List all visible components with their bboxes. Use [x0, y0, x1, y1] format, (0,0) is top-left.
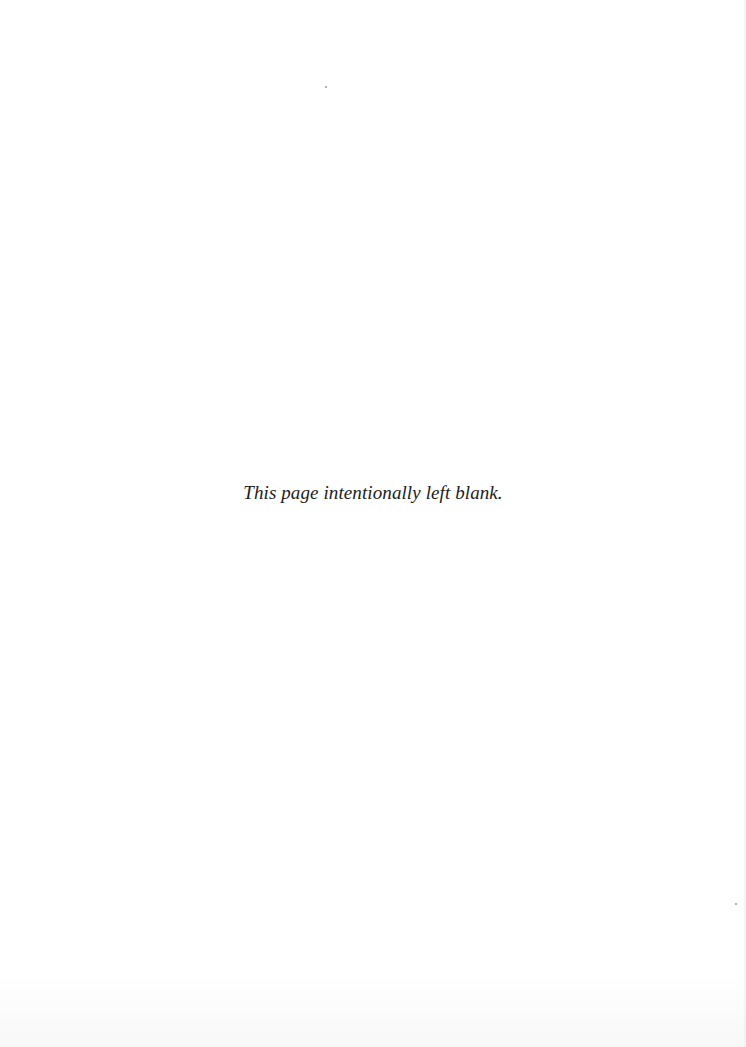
blank-page-notice: This page intentionally left blank.	[0, 482, 746, 504]
scan-speck	[325, 86, 327, 88]
scan-speck	[735, 903, 737, 905]
document-page: This page intentionally left blank.	[0, 0, 746, 1047]
